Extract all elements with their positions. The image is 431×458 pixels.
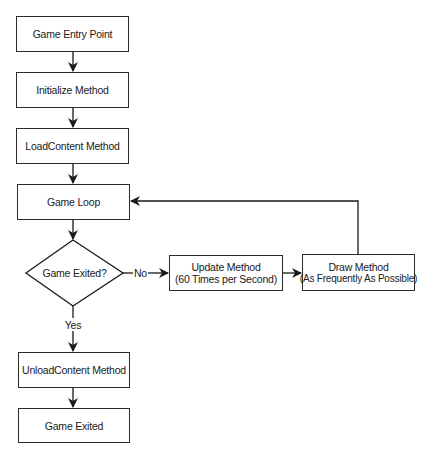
decision-label: Game Exited?	[26, 267, 123, 279]
node-label-line1: Update Method	[191, 261, 260, 273]
node-update-method: Update Method (60 Times per Second)	[169, 255, 283, 291]
node-label-line2: (60 Times per Second)	[175, 273, 277, 285]
node-game-exited: Game Exited	[18, 408, 130, 443]
edge-label-yes: Yes	[58, 319, 88, 331]
node-label: LoadContent Method	[25, 140, 119, 152]
node-label-line2: (As Frequently As Possible)	[300, 273, 417, 285]
node-game-loop: Game Loop	[17, 184, 130, 220]
node-loadcontent-method: LoadContent Method	[16, 128, 129, 164]
node-label: UnloadContent Method	[22, 364, 126, 376]
node-label: Initialize Method	[36, 84, 108, 96]
node-label-line1: Draw Method	[328, 261, 388, 273]
node-label: Game Entry Point	[33, 28, 113, 40]
node-label: Game Exited	[45, 420, 104, 432]
node-initialize-method: Initialize Method	[16, 72, 129, 108]
node-unloadcontent-method: UnloadContent Method	[18, 352, 130, 388]
node-draw-method: Draw Method (As Frequently As Possible)	[302, 254, 415, 291]
edge-label-no: No	[133, 267, 148, 279]
node-game-entry-point: Game Entry Point	[16, 16, 129, 52]
node-label: Game Loop	[47, 196, 100, 208]
arrow-draw-to-loop	[131, 201, 358, 254]
flowchart-connectors	[0, 0, 431, 458]
